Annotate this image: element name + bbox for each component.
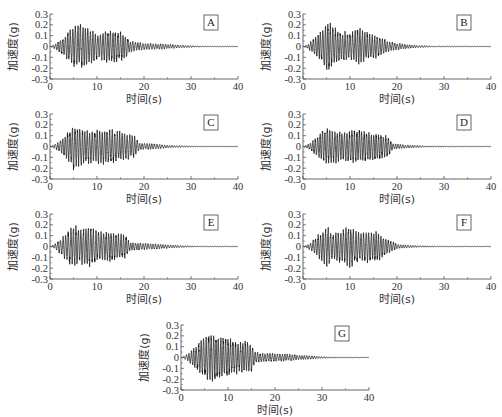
panel-label: C	[207, 116, 214, 128]
acceleration-waveform	[50, 128, 238, 170]
chart-panel-c: 0.30.20.10-0.1-0.2-0.3010203040时间(s)加速度(…	[0, 100, 250, 205]
chart-svg: 0.30.20.10-0.1-0.2-0.3010203040时间(s)加速度(…	[0, 100, 250, 205]
y-tick-label: 0.3	[288, 9, 301, 20]
y-tick-label: -0.3	[31, 174, 48, 185]
x-tick-label: 20	[139, 281, 150, 292]
x-tick-label: 10	[345, 181, 356, 192]
y-axis-title: 加速度(g)	[259, 122, 273, 171]
x-tick-label: 10	[92, 281, 103, 292]
x-tick-label: 30	[439, 181, 450, 192]
y-tick-label: 0	[43, 141, 48, 152]
panel-label: E	[208, 216, 215, 228]
chart-panel-d: 0.30.20.10-0.1-0.2-0.3010203040时间(s)加速度(…	[253, 100, 502, 205]
y-tick-label: -0.1	[284, 252, 301, 263]
x-tick-label: 30	[439, 281, 450, 292]
acceleration-waveform	[50, 24, 238, 67]
x-tick-label: 20	[392, 181, 403, 192]
acceleration-waveform	[50, 225, 238, 267]
panel-label: D	[460, 116, 468, 128]
y-tick-label: -0.3	[31, 74, 48, 85]
x-tick-label: 20	[139, 181, 150, 192]
y-tick-label: 0.2	[35, 19, 48, 30]
x-tick-label: 0	[300, 181, 305, 192]
y-tick-label: -0.2	[284, 163, 301, 174]
chart-panel-g: 0.30.20.10-0.1-0.2-0.3010203040时间(s)加速度(…	[131, 311, 381, 416]
y-tick-label: -0.1	[162, 363, 179, 374]
y-tick-label: 0.2	[288, 119, 301, 130]
x-tick-label: 30	[186, 281, 197, 292]
y-tick-label: -0.3	[284, 274, 301, 285]
y-tick-label: -0.2	[162, 374, 179, 385]
x-tick-label: 20	[270, 392, 281, 403]
y-axis-title: 加速度(g)	[6, 22, 20, 71]
x-tick-label: 30	[186, 181, 197, 192]
y-tick-label: 0.2	[35, 119, 48, 130]
acceleration-waveform	[181, 335, 369, 381]
y-tick-label: 0.2	[288, 219, 301, 230]
y-tick-label: 0	[296, 241, 301, 252]
y-tick-label: 0.1	[35, 230, 48, 241]
y-tick-label: -0.1	[31, 252, 48, 263]
chart-panel-e: 0.30.20.10-0.1-0.2-0.3010203040时间(s)加速度(…	[0, 200, 250, 305]
y-tick-label: 0.3	[35, 109, 48, 120]
x-tick-label: 20	[139, 81, 150, 92]
x-tick-label: 0	[47, 281, 52, 292]
y-tick-label: -0.2	[284, 63, 301, 74]
y-axis-title: 加速度(g)	[137, 333, 151, 382]
x-tick-label: 40	[364, 392, 375, 403]
y-tick-label: 0.3	[35, 209, 48, 220]
y-tick-label: -0.1	[31, 152, 48, 163]
y-tick-label: 0	[174, 352, 179, 363]
x-tick-label: 30	[186, 81, 197, 92]
y-axis-title: 加速度(g)	[6, 222, 20, 271]
x-tick-label: 0	[300, 281, 305, 292]
chart-svg: 0.30.20.10-0.1-0.2-0.3010203040时间(s)加速度(…	[253, 100, 502, 205]
y-tick-label: 0.3	[166, 320, 179, 331]
x-tick-label: 20	[392, 281, 403, 292]
y-tick-label: -0.2	[31, 63, 48, 74]
y-axis-title: 加速度(g)	[6, 122, 20, 171]
chart-panel-b: 0.30.20.10-0.1-0.2-0.3010203040时间(s)加速度(…	[253, 0, 502, 105]
x-tick-label: 10	[223, 392, 234, 403]
y-tick-label: -0.2	[31, 163, 48, 174]
chart-svg: 0.30.20.10-0.1-0.2-0.3010203040时间(s)加速度(…	[253, 0, 502, 105]
x-tick-label: 40	[233, 181, 244, 192]
y-tick-label: 0.2	[288, 19, 301, 30]
x-tick-label: 40	[233, 81, 244, 92]
chart-svg: 0.30.20.10-0.1-0.2-0.3010203040时间(s)加速度(…	[253, 200, 502, 305]
x-axis-title: 时间(s)	[126, 293, 162, 306]
x-tick-label: 40	[486, 181, 497, 192]
x-tick-label: 30	[439, 81, 450, 92]
y-tick-label: 0	[296, 41, 301, 52]
y-tick-label: -0.2	[284, 263, 301, 274]
x-tick-label: 0	[47, 81, 52, 92]
y-tick-label: 0.3	[288, 109, 301, 120]
chart-panel-f: 0.30.20.10-0.1-0.2-0.3010203040时间(s)加速度(…	[253, 200, 502, 305]
x-tick-label: 30	[317, 392, 328, 403]
y-tick-label: -0.3	[284, 174, 301, 185]
x-tick-label: 20	[392, 81, 403, 92]
y-axis-title: 加速度(g)	[259, 22, 273, 71]
y-tick-label: 0	[43, 41, 48, 52]
y-tick-label: 0.2	[166, 330, 179, 341]
y-tick-label: -0.3	[284, 74, 301, 85]
y-tick-label: -0.1	[284, 152, 301, 163]
y-tick-label: -0.1	[284, 52, 301, 63]
y-axis-title: 加速度(g)	[259, 222, 273, 271]
chart-svg: 0.30.20.10-0.1-0.2-0.3010203040时间(s)加速度(…	[131, 311, 381, 416]
y-tick-label: 0.1	[288, 130, 301, 141]
y-tick-label: -0.3	[31, 274, 48, 285]
x-axis-title: 时间(s)	[257, 404, 293, 417]
y-tick-label: -0.1	[31, 52, 48, 63]
y-tick-label: 0	[296, 141, 301, 152]
y-tick-label: -0.2	[31, 263, 48, 274]
acceleration-waveform	[303, 128, 491, 163]
panel-label: B	[460, 16, 467, 28]
y-tick-label: 0.2	[35, 219, 48, 230]
chart-svg: 0.30.20.10-0.1-0.2-0.3010203040时间(s)加速度(…	[0, 200, 250, 305]
x-tick-label: 40	[486, 281, 497, 292]
x-tick-label: 10	[345, 81, 356, 92]
y-tick-label: 0.1	[166, 341, 179, 352]
y-tick-label: 0.1	[288, 30, 301, 41]
x-tick-label: 10	[345, 281, 356, 292]
